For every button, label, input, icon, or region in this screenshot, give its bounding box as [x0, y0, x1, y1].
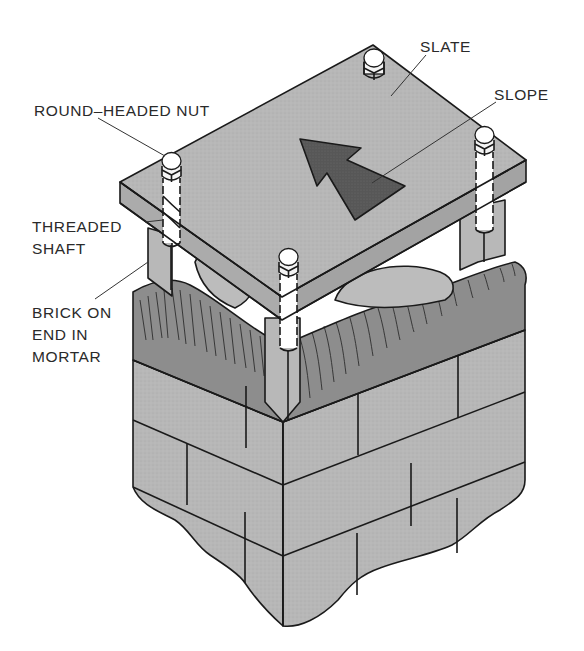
label-brick-3: MORTAR	[32, 348, 101, 365]
label-slope: SLOPE	[494, 86, 549, 103]
round-headed-nut-front	[279, 249, 298, 279]
round-headed-nut-right	[475, 127, 494, 157]
label-threaded-shaft-2: SHAFT	[32, 240, 86, 257]
label-round-headed-nut: ROUND–HEADED NUT	[34, 102, 210, 119]
label-brick-2: END IN	[32, 326, 88, 343]
brick-pier	[133, 245, 526, 627]
slate-pier-diagram: SLATE SLOPE ROUND–HEADED NUT THREADED SH…	[0, 0, 584, 651]
label-slate: SLATE	[420, 38, 471, 55]
round-headed-nut-back	[364, 49, 384, 80]
label-threaded-shaft-1: THREADED	[32, 218, 122, 235]
round-headed-nut-left	[162, 153, 181, 183]
leader-round-headed-nut	[98, 118, 165, 156]
label-brick-1: BRICK ON	[32, 304, 112, 321]
